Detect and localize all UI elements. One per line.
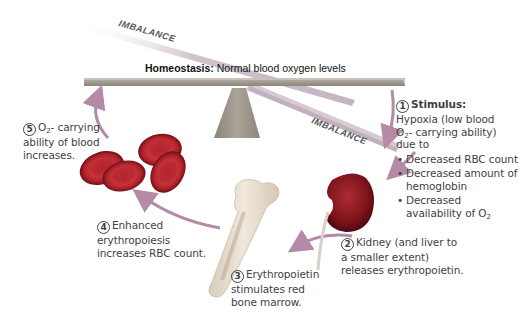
step-5-line-3: increases. (23, 149, 113, 162)
step-2-line-3: releases erythropoietin. (341, 264, 491, 277)
step-1-stimulus: 1Stimulus: Hypoxia (low blood O2- carryi… (396, 98, 518, 221)
step-5-line-1: O2- carrying (38, 121, 100, 133)
step-4-line-2: erythropoiesis (97, 234, 217, 247)
cause-item: Decreased amount of hemoglobin (396, 167, 518, 192)
step-number-4: 4 (97, 221, 110, 234)
step-4-line-3: increases RBC count. (97, 247, 217, 260)
stimulus-heading: Stimulus: (411, 98, 466, 110)
step-4-erythropoiesis: 4Enhanced erythropoiesis increases RBC c… (97, 219, 217, 259)
step-2-line-1: Kidney (and liver to (356, 236, 457, 248)
step-3-line-3: bone marrow. (231, 296, 341, 309)
step-3-line-2: stimulates red (231, 283, 341, 296)
stimulus-line-2: O2- carrying ability) (396, 126, 518, 139)
step-number-2: 2 (341, 238, 354, 251)
step-2-line-2: a smaller extent) (341, 251, 491, 264)
step-5-line-2: ability of blood (23, 136, 113, 149)
stimulus-line-3: due to (396, 138, 518, 151)
step-number-3: 3 (231, 270, 244, 283)
stimulus-line-1: Hypoxia (low blood (396, 113, 518, 126)
step-3-bone-marrow: 3Erythropoietin stimulates red bone marr… (231, 268, 341, 308)
step-number-5: 5 (23, 123, 36, 136)
homeostasis-text: Normal blood oxygen levels (217, 62, 346, 74)
homeostasis-heading: Homeostasis: (145, 62, 214, 74)
fulcrum (214, 88, 260, 138)
step-2-kidney: 2Kidney (and liver to a smaller extent) … (341, 236, 491, 276)
step-4-line-1: Enhanced (112, 219, 163, 231)
step-number-1: 1 (396, 100, 409, 113)
arrow-stimulus-to-kidney (388, 90, 393, 138)
cause-item: Decreased availability of O2 (396, 194, 518, 219)
step-3-line-1: Erythropoietin (246, 268, 319, 280)
step-5-oxygen-capacity: 5O2- carrying ability of blood increases… (23, 121, 113, 161)
homeostasis-label: Homeostasis: Normal blood oxygen levels (145, 62, 346, 74)
cause-item: Decreased RBC count (396, 153, 518, 166)
homeostasis-plank (84, 78, 405, 86)
stimulus-causes-list: Decreased RBC count Decreased amount of … (396, 153, 518, 220)
